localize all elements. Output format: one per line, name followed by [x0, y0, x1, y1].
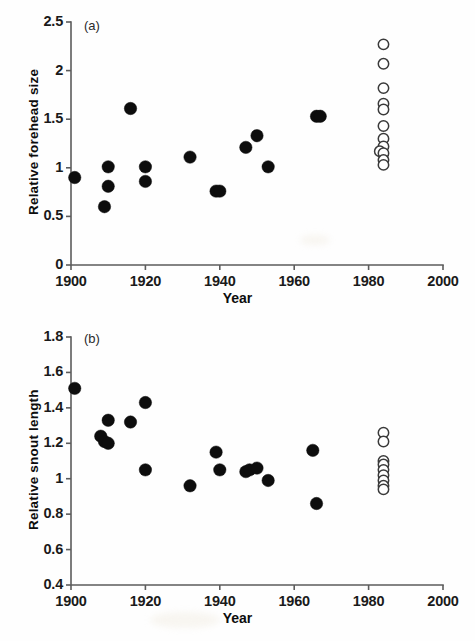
x-tick-label: 1960 [264, 273, 324, 289]
data-point-filled [262, 161, 274, 173]
data-point-filled [310, 497, 322, 509]
y-tick-label: 1 [7, 470, 63, 486]
panel-b-x-axis-title: Year [0, 610, 475, 626]
y-tick-label: 1 [7, 159, 63, 175]
panel-a-x-axis-title: Year [0, 290, 475, 306]
y-tick-label: 0.4 [7, 576, 63, 592]
data-point-open [378, 436, 388, 446]
data-point-filled [102, 161, 114, 173]
data-point-filled [139, 464, 151, 476]
panel-a-y-axis-title: Relative forehead size [26, 69, 41, 215]
data-point-open [378, 59, 388, 69]
data-point-filled [98, 200, 110, 212]
y-tick-label: 1.4 [7, 399, 63, 415]
y-tick-label: 1.2 [7, 434, 63, 450]
x-tick-label: 1920 [115, 273, 175, 289]
data-point-open [378, 160, 388, 170]
panel-b: (b) Relative snout length Year 0.40.60.8… [0, 310, 475, 641]
y-tick-label: 2.5 [7, 13, 63, 29]
x-tick-label: 1940 [190, 593, 250, 609]
data-point-filled [139, 175, 151, 187]
data-point-filled [214, 464, 226, 476]
y-tick-label: 2 [7, 62, 63, 78]
y-tick-label: 0.6 [7, 541, 63, 557]
data-point-filled [262, 474, 274, 486]
data-point-filled [210, 446, 222, 458]
data-point-open [378, 104, 388, 114]
y-tick-label: 0.5 [7, 207, 63, 223]
data-point-filled [102, 180, 114, 192]
data-point-filled [184, 480, 196, 492]
x-tick-label: 1900 [41, 593, 101, 609]
scientific-figure: (a) Relative forehead size Year 00.511.5… [0, 0, 475, 641]
data-point-open [378, 484, 388, 494]
panel-a-plot-area [0, 0, 475, 320]
x-tick-label: 1960 [264, 593, 324, 609]
data-point-filled [124, 416, 136, 428]
data-point-open [378, 121, 388, 131]
data-point-filled [314, 110, 326, 122]
y-tick-label: 1.6 [7, 363, 63, 379]
x-tick-label: 1940 [190, 273, 250, 289]
y-tick-label: 1.5 [7, 110, 63, 126]
panel-a: (a) Relative forehead size Year 00.511.5… [0, 0, 475, 320]
x-tick-label: 1900 [41, 273, 101, 289]
x-tick-label: 2000 [413, 593, 473, 609]
x-tick-label: 1980 [339, 593, 399, 609]
data-point-filled [139, 161, 151, 173]
panel-a-label: (a) [84, 18, 100, 33]
x-tick-label: 1920 [115, 593, 175, 609]
panel-b-plot-area [0, 310, 475, 641]
data-point-filled [69, 171, 81, 183]
panel-b-label: (b) [84, 331, 100, 346]
data-point-filled [102, 437, 114, 449]
x-tick-label: 1980 [339, 273, 399, 289]
data-point-filled [214, 185, 226, 197]
y-tick-label: 0 [7, 256, 63, 272]
data-point-filled [124, 102, 136, 114]
data-point-filled [184, 151, 196, 163]
y-tick-label: 0.8 [7, 505, 63, 521]
data-point-filled [69, 382, 81, 394]
data-point-filled [251, 462, 263, 474]
data-point-open [378, 39, 388, 49]
data-point-filled [307, 444, 319, 456]
data-point-filled [102, 414, 114, 426]
data-point-filled [139, 396, 151, 408]
data-point-open [378, 83, 388, 93]
data-point-filled [240, 141, 252, 153]
x-tick-label: 2000 [413, 273, 473, 289]
y-tick-label: 1.8 [7, 328, 63, 344]
data-point-filled [251, 130, 263, 142]
